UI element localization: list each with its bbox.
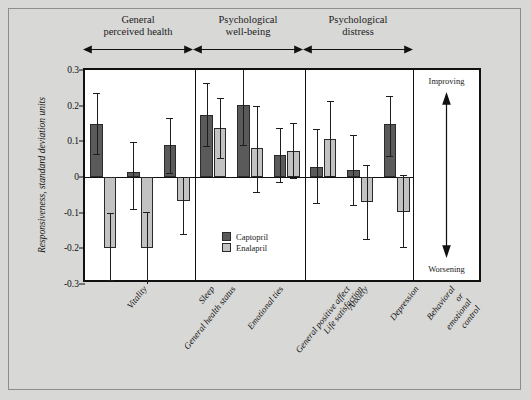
error-cap-lower [386,156,393,157]
legend-swatch-enalapril [222,243,231,252]
legend-label-enalapril: Enalapril [236,243,267,253]
error-bar [97,93,98,154]
error-cap-lower [203,146,210,147]
error-cap-lower [130,209,137,210]
error-cap-upper [327,101,334,102]
y-tick-mark [79,212,85,213]
group-range-double-arrow-icon [303,44,413,55]
error-cap-lower [350,205,357,206]
worsening-label: Worsening [414,264,479,274]
legend-item-enalapril: Enalapril [222,242,268,253]
series-legend: Captopril Enalapril [222,231,268,253]
group-separator [195,70,196,280]
error-bar [220,98,221,158]
error-cap-upper [203,83,210,84]
error-bar [147,212,148,284]
error-bar [257,106,258,192]
error-cap-upper [400,175,407,176]
error-cap-lower [93,154,100,155]
group-header: Psychological well-being [193,14,303,38]
error-bar [243,70,244,145]
improving-label: Improving [414,76,479,86]
error-cap-upper [363,165,370,166]
error-cap-upper [130,142,137,143]
error-cap-upper [253,106,260,107]
y-tick-label: -0.1 [64,208,79,218]
legend-swatch-captopril [222,232,231,241]
group-header-label: Psychological well-being [193,14,303,38]
y-tick-mark [79,105,85,106]
error-bar [390,96,391,156]
group-header-label: Psychological distress [303,14,413,38]
error-bar [367,165,368,239]
x-axis-label: Behavioral or emotional control [424,284,482,341]
y-tick-label: 0.1 [67,136,79,146]
error-bar [170,118,171,173]
y-tick-label: -0.3 [64,279,79,289]
direction-double-arrow-icon [414,92,479,258]
error-cap-lower [180,234,187,235]
y-tick-mark [79,177,85,178]
error-cap-lower [166,173,173,174]
y-tick-mark [79,70,85,71]
error-bar [317,129,318,203]
y-tick-mark [79,248,85,249]
error-cap-lower [240,145,247,146]
x-axis-label: Emotional ties [245,284,285,332]
figure-container: General perceived healthPsychological we… [0,0,531,400]
error-cap-lower [107,280,114,281]
error-bar [133,142,134,209]
x-axis-labels: VitalityGeneral health statusSleepEmotio… [83,284,423,394]
y-tick-label: 0.3 [67,65,79,75]
x-axis-label: Depression [388,284,421,323]
error-cap-lower [217,158,224,159]
x-axis-label: General positive affect [294,284,353,355]
error-cap-upper [107,213,114,214]
error-cap-lower [253,192,260,193]
error-cap-lower [313,203,320,204]
x-axis-label: Vitality [125,284,149,311]
error-cap-lower [363,239,370,240]
group-header: Psychological distress [303,14,413,38]
error-cap-upper [276,128,283,129]
error-cap-upper [290,123,297,124]
error-bar [293,123,294,179]
y-tick-label: 0.2 [67,101,79,111]
error-cap-lower [327,176,334,177]
error-cap-upper [166,118,173,119]
error-cap-lower [290,178,297,179]
error-bar [353,135,354,205]
error-cap-upper [313,129,320,130]
error-cap-upper [180,177,187,178]
error-cap-lower [276,182,283,183]
plot-wrapper: 0.30.20.10-0.1-0.2-0.3 Improving Worseni… [83,68,481,282]
error-cap-upper [350,135,357,136]
error-bar [110,213,111,280]
legend-item-captopril: Captopril [222,231,268,242]
error-bar [207,83,208,146]
group-header-band: General perceived healthPsychological we… [0,14,531,66]
group-range-double-arrow-icon [193,44,303,55]
y-tick-label: -0.2 [64,243,79,253]
error-cap-lower [400,247,407,248]
error-cap-upper [143,212,150,213]
error-bar [280,128,281,181]
group-range-double-arrow-icon [83,44,193,55]
error-bar [330,101,331,176]
y-axis-title-holder: Responsiveness, standard deviation units [36,68,52,282]
y-tick-mark [79,141,85,142]
group-separator [305,70,306,280]
error-bar [183,177,184,234]
error-cap-upper [386,96,393,97]
group-header: General perceived health [83,14,193,38]
error-cap-upper [217,98,224,99]
error-cap-upper [93,93,100,94]
group-header-label: General perceived health [83,14,193,38]
y-axis-title: Responsiveness, standard deviation units [34,68,50,282]
legend-label-captopril: Captopril [236,232,268,242]
direction-legend-panel: Improving Worsening [413,68,481,282]
error-bar [403,175,404,246]
